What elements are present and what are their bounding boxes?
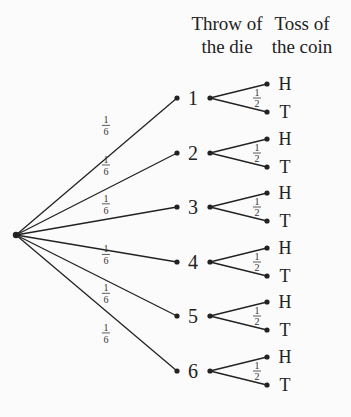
coin-header-line1: Toss of — [274, 13, 330, 34]
die-node — [174, 95, 179, 100]
coin-prob-num: 1 — [255, 305, 260, 316]
die-prob-den: 6 — [103, 205, 108, 216]
coin-prob-den: 2 — [255, 98, 260, 109]
coin-node — [264, 354, 269, 359]
coin-outcome-T: T — [280, 266, 291, 286]
die-branch-6: 166HT12 — [16, 235, 292, 395]
tree-branches: 161HT12162HT12163HT12164HT12165HT12166HT… — [16, 74, 292, 395]
die-branch-line — [16, 235, 177, 371]
die-outcome-label: 6 — [188, 360, 198, 382]
die-prob-num: 1 — [103, 114, 108, 125]
die-outcome-label: 2 — [188, 142, 198, 164]
die-prob-num: 1 — [103, 193, 108, 204]
die-header-line1: Throw of — [191, 13, 263, 34]
die-prob-den: 6 — [103, 255, 108, 266]
coin-node — [264, 136, 269, 141]
coin-outcome-H: H — [279, 74, 292, 94]
coin-header-line2: the coin — [272, 36, 333, 57]
root-node — [13, 232, 19, 238]
die-prob-num: 1 — [103, 154, 108, 165]
die-prob-den: 6 — [103, 166, 108, 177]
die-prob-num: 1 — [103, 282, 108, 293]
coin-node — [264, 382, 269, 387]
coin-outcome-T: T — [280, 320, 291, 340]
die-branch-2: 162HT12 — [16, 129, 292, 235]
coin-outcome-H: H — [279, 292, 292, 312]
die-branch-line — [16, 153, 177, 235]
die-prob-num: 1 — [103, 322, 108, 333]
die-outcome-label: 1 — [188, 87, 198, 109]
die-branch-line — [16, 235, 177, 262]
die-branch-line — [16, 207, 177, 235]
coin-node — [264, 327, 269, 332]
coin-node — [264, 273, 269, 278]
die-node — [174, 204, 179, 209]
die-branch-5: 165HT12 — [16, 235, 292, 340]
die-node — [174, 313, 179, 318]
coin-outcome-T: T — [280, 211, 291, 231]
die-node — [174, 368, 179, 373]
die-branch-3: 163HT12 — [16, 183, 292, 235]
coin-prob-den: 2 — [255, 371, 260, 382]
coin-prob-num: 1 — [255, 360, 260, 371]
coin-prob-num: 1 — [255, 251, 260, 262]
coin-prob-den: 2 — [255, 153, 260, 164]
die-outcome-label: 5 — [188, 305, 198, 327]
coin-prob-num: 1 — [255, 196, 260, 207]
die-prob-den: 6 — [103, 126, 108, 137]
coin-outcome-T: T — [280, 157, 291, 177]
coin-node — [264, 109, 269, 114]
die-prob-den: 6 — [103, 334, 108, 345]
coin-prob-num: 1 — [255, 87, 260, 98]
coin-node — [264, 164, 269, 169]
coin-outcome-H: H — [279, 238, 292, 258]
coin-node — [264, 245, 269, 250]
die-outcome-label: 3 — [188, 196, 198, 218]
coin-prob-num: 1 — [255, 142, 260, 153]
coin-outcome-T: T — [280, 102, 291, 122]
tree-diagram: Throw of the die Toss of the coin 161HT1… — [0, 0, 351, 417]
coin-node — [264, 299, 269, 304]
coin-outcome-H: H — [279, 129, 292, 149]
coin-prob-den: 2 — [255, 207, 260, 218]
die-header-line2: the die — [201, 36, 252, 57]
coin-prob-den: 2 — [255, 262, 260, 273]
coin-node — [264, 218, 269, 223]
die-node — [174, 150, 179, 155]
coin-node — [264, 190, 269, 195]
die-node — [174, 259, 179, 264]
coin-outcome-H: H — [279, 183, 292, 203]
die-branch-line — [16, 98, 177, 235]
coin-outcome-T: T — [280, 375, 291, 395]
coin-prob-den: 2 — [255, 316, 260, 327]
die-branch-4: 164HT12 — [16, 235, 292, 286]
die-prob-num: 1 — [103, 243, 108, 254]
coin-node — [264, 81, 269, 86]
die-prob-den: 6 — [103, 294, 108, 305]
die-outcome-label: 4 — [188, 251, 198, 273]
coin-outcome-H: H — [279, 347, 292, 367]
